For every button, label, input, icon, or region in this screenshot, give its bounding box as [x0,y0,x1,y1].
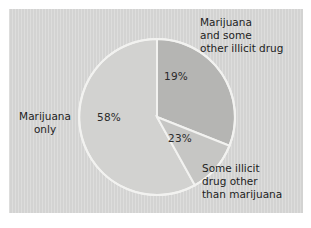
slice-label-line: other illicit drug [200,42,283,55]
slice-label-line: Marijuana [8,110,82,123]
slice-label-line: and some [200,29,283,42]
slice-label-line: drug other [202,175,282,188]
slice-label-marijuana-only: Marijuana only [8,110,82,136]
slice-label-line: Marijuana [200,16,283,29]
slice-label-other-illicit: Some illicit drug other than marijuana [202,162,282,202]
slice-label-line: only [8,123,82,136]
slice-value-marijuana-only: 58% [97,111,121,123]
slice-label-marijuana-and-other: Marijuana and some other illicit drug [200,16,283,56]
pie-chart-figure: 58% 19% 23% Marijuana only Marijuana and… [0,0,311,228]
slice-value-marijuana-and-other: 19% [164,70,188,82]
slice-label-line: than marijuana [202,188,282,201]
slice-value-other-illicit: 23% [168,132,192,144]
slice-label-line: Some illicit [202,162,282,175]
